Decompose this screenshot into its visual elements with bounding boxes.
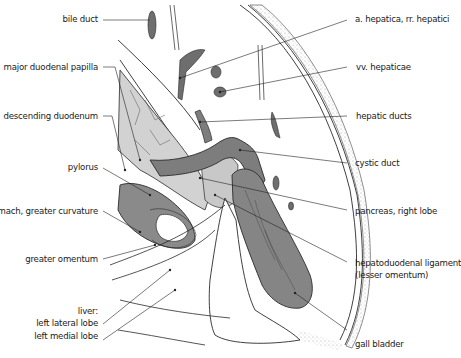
stippled-edge-lower bbox=[295, 330, 345, 350]
label-a-hepatica: a. hepatica, rr. hepatici bbox=[355, 14, 449, 25]
label-pylorus: pylorus bbox=[68, 162, 98, 173]
label-left-lateral-lobe: left lateral lobe bbox=[36, 318, 98, 329]
label-hepatic-ducts: hepatic ducts bbox=[356, 111, 412, 122]
label-gall-bladder: gall bladder bbox=[355, 339, 404, 350]
label-stomach-greater-curvature: stomach, greater curvature bbox=[0, 206, 98, 217]
label-cystic-duct: cystic duct bbox=[355, 158, 399, 169]
label-left-medial-lobe: left medial lobe bbox=[34, 331, 98, 342]
label-lesser-omentum: (lesser omentum) bbox=[355, 270, 428, 281]
label-greater-omentum: greater omentum bbox=[25, 254, 98, 265]
label-major-duodenal-papilla: major duodenal papilla bbox=[4, 62, 99, 73]
label-pancreas-right-lobe: pancreas, right lobe bbox=[355, 206, 437, 217]
label-vv-hepaticae: vv. hepaticae bbox=[356, 62, 411, 73]
label-hepatoduodenal-ligament: hepatoduodenal ligament bbox=[355, 258, 461, 269]
label-liver: liver: bbox=[78, 306, 98, 317]
label-descending-duodenum: descending duodenum bbox=[3, 111, 98, 122]
label-bile-duct: bile duct bbox=[63, 14, 98, 25]
